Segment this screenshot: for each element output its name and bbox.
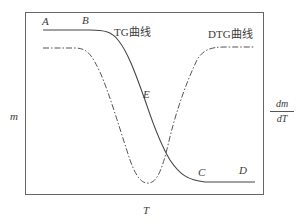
dtg-curve-label: DTG曲线: [208, 29, 253, 40]
point-d-label: D: [239, 165, 247, 176]
point-a-label: A: [42, 16, 49, 27]
y-axis-right-numerator: dm: [270, 99, 294, 112]
point-b-label: B: [82, 15, 89, 26]
y-axis-right-label: dm dT: [270, 99, 294, 124]
tg-curve-label: TG曲线: [114, 27, 151, 38]
y-axis-right-denominator: dT: [270, 112, 294, 124]
dtg-curve: [43, 47, 255, 183]
tg-dtg-diagram: A B TG曲线 DTG曲线 E C D m T dm dT: [0, 0, 298, 221]
y-axis-left-label: m: [10, 111, 18, 122]
point-e-label: E: [143, 89, 150, 100]
point-c-label: C: [198, 167, 205, 178]
x-axis-label: T: [143, 205, 149, 216]
tg-curve: [43, 30, 255, 182]
